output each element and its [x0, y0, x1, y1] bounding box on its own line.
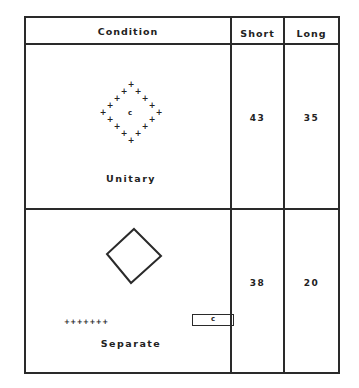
plus-mark: +: [135, 88, 142, 96]
plus-mark: +: [121, 88, 128, 96]
plus-mark: +: [107, 116, 114, 124]
row-divider: [26, 208, 338, 210]
condition-label-separate: Separate: [66, 338, 196, 349]
plus-row: +++++++: [64, 318, 109, 326]
header-divider: [26, 43, 338, 45]
plus-mark: +: [135, 130, 142, 138]
plus-mark: +: [128, 137, 135, 145]
header-long: Long: [285, 28, 338, 39]
plus-mark: +: [114, 95, 121, 103]
boxed-letter: c: [192, 314, 234, 326]
plus-mark: +: [142, 95, 149, 103]
unitary-short-value: 43: [232, 113, 283, 123]
separate-long-value: 20: [285, 278, 338, 288]
plus-mark: +: [100, 109, 107, 117]
diamond-outline-icon: [104, 226, 164, 286]
plus-mark: +: [128, 81, 135, 89]
unitary-long-value: 35: [285, 113, 338, 123]
plus-mark: +: [149, 102, 156, 110]
plus-mark: +: [142, 123, 149, 131]
plus-mark: +: [121, 130, 128, 138]
center-letter: c: [128, 109, 132, 117]
plus-mark: +: [114, 123, 121, 131]
plus-mark: +: [156, 109, 163, 117]
header-condition: Condition: [26, 26, 230, 37]
separate-short-value: 38: [232, 278, 283, 288]
plus-mark: +: [107, 102, 114, 110]
condition-label-unitary: Unitary: [76, 173, 186, 184]
plus-mark: +: [149, 116, 156, 124]
header-short: Short: [232, 28, 283, 39]
column-divider-long: [283, 18, 285, 372]
results-table: Condition Short Long + + + + + + + + + +…: [24, 16, 340, 374]
